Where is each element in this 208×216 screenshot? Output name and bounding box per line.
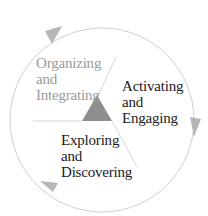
phase-line: Engaging xyxy=(122,110,183,126)
phase-line: and xyxy=(61,148,132,164)
phase-line: and xyxy=(122,94,183,110)
phase-line: Exploring xyxy=(61,132,132,148)
phase-line: Activating xyxy=(122,78,183,94)
phase-line: Integrating xyxy=(36,87,101,103)
phase-line: Organizing xyxy=(36,55,101,71)
phase-label-organizing: Organizing and Integrating xyxy=(36,55,101,103)
arrow-right-icon xyxy=(190,117,201,137)
phase-label-exploring: Exploring and Discovering xyxy=(61,132,132,180)
phase-line: Discovering xyxy=(61,164,132,180)
phase-label-activating: Activating and Engaging xyxy=(122,78,183,126)
arrow-top-left-icon xyxy=(45,26,62,44)
phase-line: and xyxy=(36,71,101,87)
